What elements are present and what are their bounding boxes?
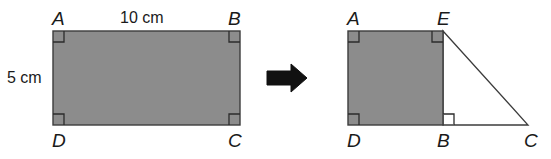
rectangle-abcd-body — [53, 31, 240, 125]
vertex-label-b-left: B — [228, 9, 241, 28]
transformation-arrow-shape — [267, 64, 307, 92]
vertex-label-a-right: A — [347, 9, 360, 28]
vertex-label-d-left: D — [52, 131, 66, 150]
square-adbe-body — [348, 31, 443, 125]
vertex-label-c-left: C — [228, 131, 242, 150]
square-adbe-with-triangle-ebc — [348, 31, 528, 125]
rectangle-abcd — [53, 31, 240, 125]
measure-label-left-5cm: 5 cm — [7, 70, 42, 86]
triangle-ebc — [443, 31, 528, 125]
geometry-canvas — [0, 0, 551, 159]
vertex-label-c-right: C — [524, 131, 538, 150]
transformation-arrow-icon — [267, 64, 307, 92]
vertex-label-d-right: D — [347, 131, 361, 150]
vertex-label-b-right: B — [437, 131, 450, 150]
vertex-label-a-left: A — [52, 9, 65, 28]
geometry-figure: A B C D 10 cm 5 cm A E D B C — [0, 0, 551, 159]
measure-label-top-10cm: 10 cm — [120, 10, 164, 26]
vertex-label-e-right: E — [437, 9, 450, 28]
